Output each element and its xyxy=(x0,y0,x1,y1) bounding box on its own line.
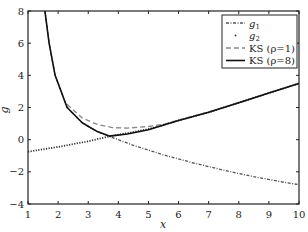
series-line-ks-rho-1- xyxy=(67,83,299,128)
x-tick-label: 3 xyxy=(85,209,91,220)
y-tick-label: 0 xyxy=(18,134,24,145)
y-tick-labels: −4−202468 xyxy=(9,6,24,210)
x-tick-label: 8 xyxy=(236,209,242,220)
y-tick-label: 8 xyxy=(18,6,24,17)
legend-swatch xyxy=(235,35,237,37)
x-tick-label: 7 xyxy=(205,209,211,220)
x-tick-label: 5 xyxy=(145,209,151,220)
y-tick-label: 6 xyxy=(18,38,24,49)
legend: g1g2KS (ρ=1)KS (ρ=8) xyxy=(222,15,297,68)
x-tick-label: 1 xyxy=(25,209,31,220)
series-line-g2 xyxy=(28,83,299,151)
x-axis-label: x xyxy=(160,218,167,231)
chart: 12345678910 −4−202468 x g g1g2KS (ρ=1)KS… xyxy=(0,0,308,232)
y-tick-label: 4 xyxy=(18,70,24,81)
x-tick-label: 4 xyxy=(115,209,121,220)
y-axis-label: g xyxy=(0,106,11,113)
legend-label: KS (ρ=8) xyxy=(249,55,295,66)
legend-label: KS (ρ=1) xyxy=(249,43,295,54)
x-tick-label: 2 xyxy=(55,209,61,220)
x-tick-label: 6 xyxy=(175,209,181,220)
y-tick-label: 2 xyxy=(18,102,24,113)
x-tick-label: 9 xyxy=(266,209,272,220)
y-tick-label: −2 xyxy=(9,166,24,177)
y-tick-label: −4 xyxy=(9,199,24,210)
chart-canvas: 12345678910 −4−202468 x g g1g2KS (ρ=1)KS… xyxy=(0,0,308,232)
x-tick-label: 10 xyxy=(293,209,306,220)
